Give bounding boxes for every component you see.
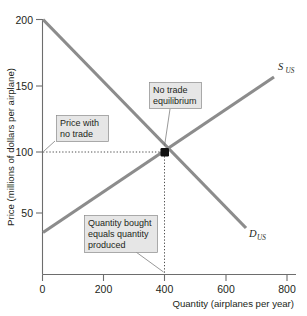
quantity-bought-callout: Quantity bought equals quantity produced: [85, 216, 158, 253]
demand-curve-label: D US: [248, 228, 266, 242]
y-tick-label-50: 50: [21, 207, 33, 219]
y-tick-label-150: 150: [15, 80, 33, 92]
y-axis-title: Price (millions of dollars per airplane): [5, 68, 16, 226]
supply-demand-chart: 200 150 100 50 0 200 400 600 800 Price (…: [0, 0, 307, 316]
equilibrium-point-marker: [161, 148, 170, 157]
quantity-bought-callout-line3: produced: [88, 240, 126, 250]
supply-curve-label-subscript: US: [286, 67, 295, 75]
x-tick-label-600: 600: [217, 283, 235, 295]
quantity-callout-leader: [136, 252, 164, 272]
no-trade-equilibrium-callout: No trade equilibrium: [150, 83, 202, 109]
quantity-bought-callout-line1: Quantity bought: [88, 218, 152, 228]
price-with-no-trade-callout: Price with no trade: [57, 116, 109, 142]
no-trade-equilibrium-callout-line1: No trade: [153, 85, 188, 95]
demand-curve-label-text: D: [248, 228, 257, 239]
supply-curve-label-text: S: [278, 61, 284, 72]
x-tick-label-400: 400: [156, 283, 174, 295]
price-with-no-trade-callout-line2: no trade: [60, 129, 93, 139]
supply-curve-label: S US: [278, 61, 295, 75]
price-with-no-trade-callout-line1: Price with: [60, 118, 99, 128]
y-tick-label-200: 200: [15, 14, 33, 26]
x-tick-label-0: 0: [40, 283, 46, 295]
x-axis-title: Quantity (airplanes per year): [172, 298, 294, 309]
equilibrium-callout-leader: [165, 109, 171, 146]
x-tick-label-800: 800: [278, 283, 296, 295]
x-tick-label-200: 200: [95, 283, 113, 295]
price-callout-leader: [44, 141, 55, 151]
demand-curve-label-subscript: US: [257, 234, 266, 242]
no-trade-equilibrium-callout-line2: equilibrium: [153, 96, 197, 106]
y-tick-label-100: 100: [15, 146, 33, 158]
quantity-bought-callout-line2: equals quantity: [88, 229, 149, 239]
